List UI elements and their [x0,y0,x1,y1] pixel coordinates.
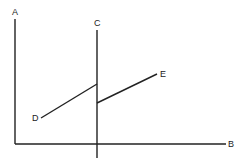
segment-E [97,74,157,103]
label-A: A [12,7,18,17]
label-D: D [32,113,39,123]
diagram-canvas: A B C D E [0,0,246,164]
label-C: C [94,18,101,28]
label-E: E [160,69,166,79]
segment-D [41,84,97,118]
label-B: B [228,139,234,149]
